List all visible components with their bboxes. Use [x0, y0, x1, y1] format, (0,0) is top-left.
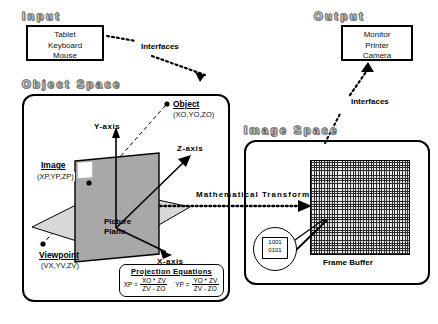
frame-buffer-magnifier: 1001 0101: [253, 227, 297, 271]
magnifier-bit-cell: 1001 0101: [262, 237, 288, 259]
diagram-canvas: Input Tablet Keyboard Mouse Interfaces O…: [0, 0, 438, 324]
magnifier-bits-row-2: 0101: [263, 247, 287, 255]
magnifier-callout-lines: [0, 0, 438, 324]
magnifier-bits-row-1: 1001: [263, 239, 287, 247]
